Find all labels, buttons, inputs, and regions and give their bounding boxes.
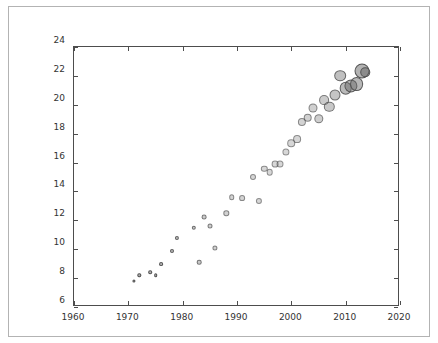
- scatter-point: [240, 195, 246, 201]
- figure-container: 681012141618202224 196019701980199020002…: [0, 0, 438, 343]
- y-tick-mark: [74, 307, 78, 308]
- y-tick-mark: [74, 220, 78, 221]
- y-tick-mark-right: [394, 220, 398, 221]
- scatter-point: [277, 161, 284, 168]
- y-tick-mark-right: [394, 249, 398, 250]
- y-tick-mark: [74, 163, 78, 164]
- scatter-point: [229, 194, 235, 200]
- x-tick-label: 2010: [333, 312, 356, 322]
- x-tick-mark: [237, 301, 238, 305]
- scatter-point: [360, 68, 370, 78]
- y-tick-label: 22: [25, 64, 65, 74]
- scatter-point: [309, 104, 318, 113]
- x-tick-mark-top: [291, 47, 292, 51]
- x-tick-mark-top: [346, 47, 347, 51]
- scatter-point: [213, 245, 218, 250]
- x-tick-mark-top: [400, 47, 401, 51]
- scatter-plot-surface: [74, 47, 398, 305]
- y-tick-label: 16: [25, 151, 65, 161]
- y-tick-label: 10: [25, 237, 65, 247]
- scatter-point: [250, 174, 256, 180]
- y-tick-label: 20: [25, 93, 65, 103]
- y-tick-label: 24: [25, 35, 65, 45]
- x-tick-label: 1970: [116, 312, 139, 322]
- scatter-point: [148, 271, 152, 275]
- x-tick-mark: [346, 301, 347, 305]
- y-tick-mark: [74, 278, 78, 279]
- x-tick-mark: [400, 301, 401, 305]
- x-tick-mark: [128, 301, 129, 305]
- scatter-point: [329, 90, 340, 101]
- scatter-point: [137, 274, 140, 277]
- y-tick-mark: [74, 191, 78, 192]
- y-tick-mark-right: [394, 163, 398, 164]
- scatter-point: [256, 198, 262, 204]
- x-tick-mark-top: [74, 47, 75, 51]
- scatter-point: [154, 273, 158, 277]
- y-tick-mark-right: [394, 105, 398, 106]
- scatter-point: [175, 236, 179, 240]
- scatter-point: [303, 113, 312, 122]
- scatter-point: [314, 114, 323, 123]
- scatter-point: [197, 260, 202, 265]
- scatter-point: [266, 169, 273, 176]
- y-tick-mark-right: [394, 76, 398, 77]
- y-tick-label: 12: [25, 208, 65, 218]
- y-tick-mark-right: [394, 47, 398, 48]
- scatter-point: [207, 224, 212, 229]
- y-tick-mark-right: [394, 307, 398, 308]
- x-tick-mark: [74, 301, 75, 305]
- y-tick-label: 6: [25, 295, 65, 305]
- y-tick-mark-right: [394, 191, 398, 192]
- scatter-point: [293, 135, 301, 143]
- y-tick-mark-right: [394, 134, 398, 135]
- scatter-point: [170, 249, 174, 253]
- scatter-point: [202, 214, 207, 219]
- x-tick-label: 1990: [225, 312, 248, 322]
- x-tick-label: 2020: [388, 312, 411, 322]
- x-tick-mark-top: [237, 47, 238, 51]
- scatter-point: [282, 148, 289, 155]
- figure-border: 681012141618202224 196019701980199020002…: [8, 6, 430, 337]
- x-tick-mark-top: [183, 47, 184, 51]
- y-tick-mark-right: [394, 278, 398, 279]
- y-tick-mark: [74, 249, 78, 250]
- x-tick-mark: [291, 301, 292, 305]
- scatter-point: [223, 210, 228, 215]
- scatter-point: [191, 225, 195, 229]
- y-tick-label: 18: [25, 122, 65, 132]
- x-tick-label: 2000: [279, 312, 302, 322]
- x-tick-mark: [183, 301, 184, 305]
- scatter-point: [159, 262, 163, 266]
- x-tick-label: 1960: [62, 312, 85, 322]
- scatter-point: [132, 279, 135, 282]
- x-tick-label: 1980: [170, 312, 193, 322]
- plot-axes: [73, 46, 399, 306]
- y-tick-mark: [74, 76, 78, 77]
- y-tick-label: 8: [25, 266, 65, 276]
- scatter-point: [334, 70, 346, 82]
- scatter-point: [350, 77, 364, 91]
- y-tick-label: 14: [25, 179, 65, 189]
- scatter-point: [324, 102, 334, 112]
- x-tick-mark-top: [128, 47, 129, 51]
- y-tick-mark: [74, 105, 78, 106]
- y-tick-mark: [74, 134, 78, 135]
